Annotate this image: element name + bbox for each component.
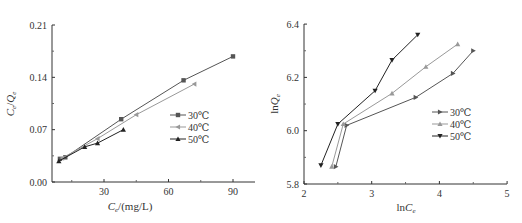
legend-label: 50℃ [188,134,209,145]
x-tick-label: 90 [228,186,238,197]
x-tick-label: 3 [369,188,374,199]
right-plot-area [318,33,476,170]
right-x-axis-title: lnCe [396,201,415,215]
data-point-marker [471,48,476,53]
data-point-marker [121,127,126,132]
data-point-marker [335,122,340,127]
legend-label: 50℃ [450,131,471,142]
data-point-marker [134,112,139,117]
right-y-axis-title: lnQe [268,94,282,114]
x-tick-label: 4 [437,188,442,199]
legend-item: 30℃ [170,110,209,121]
data-point-marker [192,81,197,86]
data-point-marker [389,58,394,63]
left-x-axis-title: Ce/(mg/L) [108,200,153,214]
data-point-marker [455,41,460,46]
data-point-marker [181,78,185,82]
data-point-marker [95,141,100,146]
x-tick-label: 60 [164,186,174,197]
chart-canvas: 0.000.070.140.21 306090 Ce/Qe Ce/(mg/L) … [0,0,522,223]
legend-label: 40℃ [188,122,209,133]
series-1 [59,81,196,160]
legend-item: 50℃ [432,131,471,142]
right-chart-freundlich: 5.86.06.26.4 2345 lnQe lnCe 30℃40℃50℃ [268,19,510,215]
y-tick-label: 0.21 [30,20,48,31]
data-point-marker [176,113,180,117]
x-tick-label: 2 [302,188,307,199]
left-x-axis: 306090 [52,179,255,197]
legend-item: 50℃ [170,134,209,145]
right-x-axis: 2345 [302,181,510,199]
legend-item: 30℃ [432,107,471,118]
x-tick-label: 5 [505,188,510,199]
left-y-axis: 0.000.070.140.21 [30,20,56,188]
y-tick-label: 6.2 [287,72,300,83]
series-line [62,84,194,158]
left-y-axis-title: Ce/Qe [4,92,18,117]
data-point-marker [438,109,443,114]
left-chart-langmuir: 0.000.070.140.21 306090 Ce/Qe Ce/(mg/L) … [4,20,255,215]
data-point-marker [175,124,180,129]
series-line [59,130,124,161]
legend-label: 30℃ [450,107,471,118]
series-2 [318,33,420,168]
y-tick-label: 6.4 [287,19,300,30]
y-tick-label: 6.0 [287,125,300,136]
data-point-marker [231,54,235,58]
series-1 [329,41,460,168]
data-point-marker [414,95,419,100]
legend-label: 30℃ [188,110,209,121]
x-tick-label: 30 [99,186,109,197]
data-point-marker [329,164,334,169]
data-point-marker [318,163,323,168]
y-tick-label: 0.00 [30,177,48,188]
y-tick-label: 0.14 [30,72,48,83]
legend-label: 40℃ [450,119,471,130]
right-legend: 30℃40℃50℃ [432,107,471,142]
right-y-axis: 5.86.06.26.4 [287,19,308,190]
series-line [321,35,418,166]
data-point-marker [119,117,123,121]
legend-item: 40℃ [432,119,471,130]
left-legend: 30℃40℃50℃ [170,110,209,145]
legend-item: 40℃ [170,122,209,133]
y-tick-label: 0.07 [30,124,48,135]
y-tick-label: 5.8 [287,179,300,190]
